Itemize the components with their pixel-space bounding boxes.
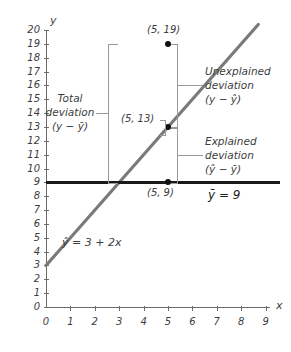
unexplained-deviation-line-1: Unexplained xyxy=(205,64,271,78)
total-deviation-line-2: deviation xyxy=(42,105,98,119)
explained-deviation-line-2: deviation xyxy=(205,148,257,162)
total-deviation-line-3: (y − ȳ) xyxy=(42,119,98,133)
regression-deviation-figure: y x 01234567891011121314151617181920 012… xyxy=(0,0,291,352)
data-point-label-predicted: (5, 13) xyxy=(121,113,154,124)
unexplained-deviation-annotation: Unexplained deviation (y − ŷ) xyxy=(205,64,271,106)
unexplained-deviation-line-2: deviation xyxy=(205,78,271,92)
unexplained-deviation-leader xyxy=(177,85,203,86)
data-point-label-observed: (5, 19) xyxy=(147,24,180,35)
explained-deviation-line-1: Explained xyxy=(205,134,257,148)
unexplained-deviation-line-3: (y − ŷ) xyxy=(205,92,271,106)
mean-line xyxy=(46,181,280,184)
total-deviation-annotation: Total deviation (y − ȳ) xyxy=(42,91,98,133)
total-deviation-line-1: Total xyxy=(42,91,98,105)
unexplained-deviation-bracket xyxy=(168,44,178,129)
mean-equation-label: ȳ = 9 xyxy=(208,188,240,202)
data-point-label-mean: (5, 9) xyxy=(147,187,174,198)
regression-line xyxy=(0,0,291,352)
total-deviation-bracket xyxy=(108,44,118,185)
explained-deviation-leader xyxy=(177,155,203,156)
explained-deviation-annotation: Explained deviation (ŷ − ȳ) xyxy=(205,134,257,176)
explained-deviation-line-3: (ŷ − ȳ) xyxy=(205,162,257,176)
data-point-observed xyxy=(165,41,171,47)
predicted-point-inner-bracket xyxy=(160,120,166,136)
regression-equation-label: ŷ = 3 + 2x xyxy=(62,236,121,249)
